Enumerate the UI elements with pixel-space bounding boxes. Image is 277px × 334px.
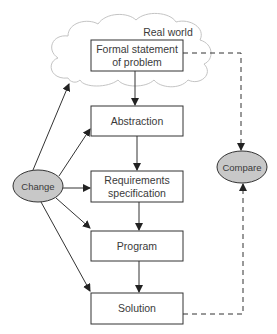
node-change-label: Change: [13, 180, 63, 193]
box-formal-statement-label: Formal statement of problem: [91, 40, 183, 71]
formal-line2: of problem: [112, 56, 162, 69]
arrow-change-solution: [41, 202, 90, 291]
box-requirements-label: Requirements specification: [91, 171, 183, 202]
box-program-label: Program: [91, 231, 183, 261]
requirements-line2: specification: [108, 187, 166, 200]
real-world-label: Real world: [140, 26, 196, 39]
formal-line1: Formal statement: [96, 43, 178, 56]
arrow-change-abstraction: [59, 129, 90, 176]
arrow-change-real-world: [33, 84, 69, 170]
node-compare-label: Compare: [217, 161, 267, 174]
requirements-line1: Requirements: [104, 174, 169, 187]
dashed-solution-compare: [183, 184, 243, 314]
arrow-change-program: [56, 198, 90, 228]
box-solution-label: Solution: [91, 293, 183, 324]
box-abstraction-label: Abstraction: [91, 106, 183, 136]
